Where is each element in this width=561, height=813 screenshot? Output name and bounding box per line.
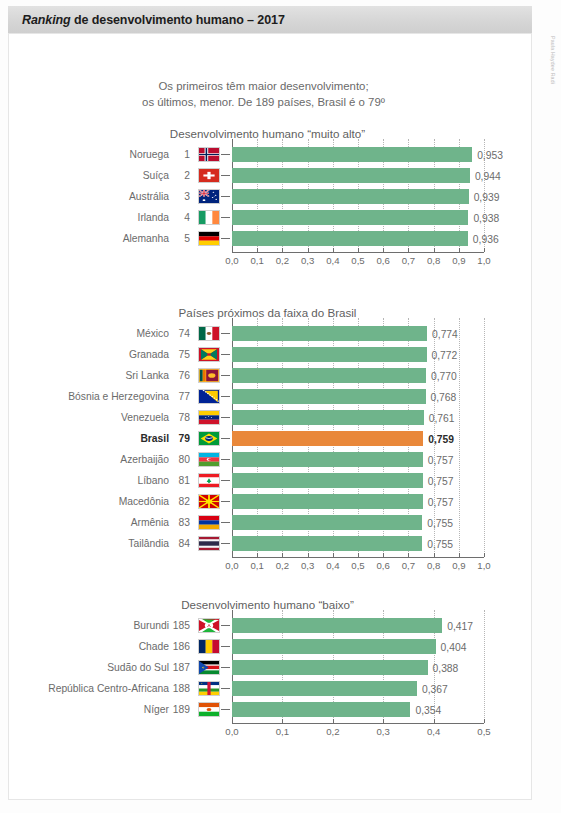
gridline [484,610,485,720]
value-label: 0,757 [428,454,454,465]
axis-connector [221,543,230,544]
x-axis-tick-label: 0,4 [326,560,339,571]
country-rank: 76 [169,370,193,381]
x-axis-tick-label: 0,5 [477,726,490,737]
value-bar[interactable]: 0,367 [232,681,417,696]
flag-icon-azerbaijan [198,452,220,467]
row-label-group: Armênia83 [131,512,232,533]
country-name: Líbano [138,475,170,486]
x-axis-tick [383,719,384,723]
x-axis-labels: 0,00,10,20,30,40,50,60,70,80,91,0 [232,253,484,267]
country-rank: 84 [169,538,193,549]
value-bar[interactable]: 0,757 [232,473,423,488]
x-axis-tick [308,553,309,557]
value-bar[interactable]: 0,953 [232,147,472,162]
value-bar[interactable]: 0,354 [232,702,410,717]
value-label: 0,936 [473,233,499,244]
value-bar[interactable]: 0,772 [232,347,427,362]
table-row[interactable]: Níger189 0,354 [232,699,484,720]
flag-icon-bosnia [198,389,220,404]
value-bar[interactable]: 0,936 [232,231,468,246]
table-row[interactable]: Alemanha50,936 [232,228,484,249]
axis-connector [221,709,230,710]
x-axis-tick-label: 0,5 [351,560,364,571]
flag-icon-venezuela [198,410,220,425]
table-row[interactable]: Brasil79 0,759 [232,428,484,449]
row-label-group: Bósnia e Herzegovina77 [68,386,232,407]
value-bar[interactable]: 0,388 [232,660,428,675]
flag-icon-armenia [198,515,220,530]
value-bar[interactable]: 0,768 [232,389,426,404]
row-label-group: Níger189 [144,699,232,720]
x-axis-tick [434,553,435,557]
country-rank: 80 [169,454,193,465]
value-bar[interactable]: 0,944 [232,168,470,183]
x-axis-tick-label: 0,8 [427,255,440,266]
infographic-page: Ranking de desenvolvimento humano – 2017… [0,0,561,813]
value-bar[interactable]: 0,757 [232,452,423,467]
value-bar[interactable]: 0,755 [232,515,422,530]
chart-title: Desenvolvimento humano “baixo” [0,598,561,611]
flag-icon-thailand [198,536,220,551]
table-row[interactable]: Macedônia82 0,757 [232,491,484,512]
value-bar[interactable]: 0,938 [232,210,468,225]
table-row[interactable]: Azerbaijão800,757 [232,449,484,470]
value-bar[interactable]: 0,759 [232,431,423,446]
x-axis-tick-label: 0,6 [377,560,390,571]
x-axis-tick [408,248,409,252]
value-label: 0,953 [477,149,503,160]
axis-connector [221,396,230,397]
flag-icon-ireland [198,210,220,225]
table-row[interactable]: Granada75 0,772 [232,344,484,365]
axis-connector [221,238,230,239]
country-rank: 82 [169,496,193,507]
table-row[interactable]: México740,774 [232,323,484,344]
table-row[interactable]: Armênia830,755 [232,512,484,533]
table-row[interactable]: Líbano81 0,757 [232,470,484,491]
x-axis-tick [484,553,485,557]
x-axis-tick [232,248,233,252]
country-name: Azerbaijão [120,454,169,465]
table-row[interactable]: Venezuela780,761 [232,407,484,428]
axis-connector [221,667,230,668]
x-axis-tick [358,553,359,557]
table-row[interactable]: Irlanda40,938 [232,207,484,228]
value-bar[interactable]: 0,761 [232,410,424,425]
table-row[interactable]: República Centro-Africana188 0,367 [232,678,484,699]
x-axis-tick [459,248,460,252]
x-axis-tick-label: 0,3 [377,726,390,737]
table-row[interactable]: Austrália3 0,939 [232,186,484,207]
table-row[interactable]: Sri Lanka76 0,770 [232,365,484,386]
table-row[interactable]: Burundi185 0,417 [232,615,484,636]
value-bar[interactable]: 0,770 [232,368,426,383]
value-bar[interactable]: 0,774 [232,326,427,341]
table-row[interactable]: Chade1860,404 [232,636,484,657]
value-bar[interactable]: 0,757 [232,494,423,509]
country-rank: 74 [169,328,193,339]
page-title-italic: Ranking [22,13,71,27]
title-bar: Ranking de desenvolvimento humano – 2017 [8,6,532,33]
country-name: Venezuela [121,412,169,423]
chart-plot-area: México740,774Granada75 0,772Sri Lanka76 … [232,323,484,572]
country-rank: 189 [169,704,193,715]
axis-connector [221,375,230,376]
value-bar[interactable]: 0,404 [232,639,436,654]
value-bar[interactable]: 0,417 [232,618,442,633]
table-row[interactable]: Tailândia84 0,755 [232,533,484,554]
country-name: Sudão do Sul [107,662,169,673]
flag-icon-grenada [198,347,220,362]
value-label: 0,939 [474,191,500,202]
flag-icon-switzerland [198,168,220,183]
value-bar[interactable]: 0,939 [232,189,469,204]
x-axis-tick-label: 0,3 [301,255,314,266]
table-row[interactable]: Bósnia e Herzegovina77 0,768 [232,386,484,407]
subtitle: Os primeiros têm maior desenvolvimento; … [0,78,561,110]
table-row[interactable]: Suíça2 0,944 [232,165,484,186]
x-axis-tick-label: 0,2 [326,726,339,737]
value-bar[interactable]: 0,755 [232,536,422,551]
country-rank: 1 [169,149,193,160]
flag-icon-car [198,681,220,696]
table-row[interactable]: Sudão do Sul187 0,388 [232,657,484,678]
table-row[interactable]: Noruega1 0,953 [232,144,484,165]
country-name: Sri Lanka [125,370,169,381]
